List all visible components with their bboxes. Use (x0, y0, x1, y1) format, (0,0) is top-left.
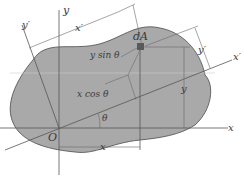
y-prime-axis-label: y′ (21, 19, 31, 30)
origin-label: O (48, 131, 57, 144)
x-axis-label: x (228, 122, 234, 133)
area-diagram: y y′ x′ x′ y′ dA y sin θ x cos θ θ O x x… (0, 0, 244, 191)
x-dim-label: x (100, 141, 106, 152)
da-label: dA (133, 30, 148, 43)
y-axis-label: y (62, 4, 70, 17)
da-element (137, 43, 144, 50)
angle-label: θ (102, 113, 108, 123)
y-sin-label: y sin θ (89, 50, 120, 60)
y-prime-dim-label: y′ (197, 44, 207, 55)
x-prime-dimension-ext (118, 4, 135, 12)
x-prime-axis-label: x′ (233, 51, 242, 62)
x-prime-dim-label: x′ (75, 22, 84, 33)
x-cos-label: x cos θ (77, 89, 109, 99)
y-dim-label: y (180, 83, 187, 94)
